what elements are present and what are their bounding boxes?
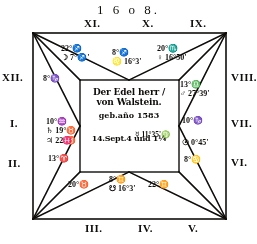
house-data-x: 8°♐ ♌ 16°3'	[112, 48, 141, 67]
house-data-iii: 20°♉	[68, 180, 89, 189]
inscription-line-4: 14.Sept.4 und 1¼	[80, 133, 178, 143]
cusp-vi: 8°♋	[184, 155, 201, 164]
house-data-xi: 22°♐ ☽ 7°♐'	[61, 44, 89, 63]
house-label-iii: III.	[85, 222, 103, 234]
center-inscription: Der Edel herr / von Walstein. geb.año 15…	[80, 82, 178, 170]
house-label-viii: VIII.	[231, 71, 257, 83]
house-label-vi: VI.	[231, 156, 247, 168]
body-i-saturn: ♄ 19°♉	[46, 126, 76, 135]
inscription-line-3: geb.año 1583	[80, 110, 178, 120]
body-ix: ♀ 16°50'	[157, 53, 186, 62]
cusp-ii: 13°♈	[48, 154, 69, 163]
inscription-line-1: Der Edel herr /	[80, 87, 178, 97]
house-label-vii: VII.	[231, 117, 252, 129]
cusp-xi: 22°♐	[61, 44, 82, 53]
body-x: ♌ 16°3'	[112, 57, 141, 66]
cusp-x: 8°♐	[112, 48, 129, 57]
house-label-ix: IX.	[190, 17, 206, 29]
house-data-ix: 20°♏ ♀ 16°50'	[157, 44, 186, 63]
house-data-iv: 8°♊ ☋ 16°3'	[109, 175, 135, 194]
chart-year: 1 6 o 8.	[0, 2, 257, 18]
house-label-iv: IV.	[138, 222, 153, 234]
house-label-i: I.	[10, 117, 18, 129]
house-data-vi: 8°♋	[184, 155, 201, 164]
inscription-line-2: von Walstein.	[80, 97, 178, 107]
cusp-i: 10°♒	[46, 117, 67, 126]
house-label-v: V.	[188, 222, 198, 234]
cusp-ix: 20°♏	[157, 44, 178, 53]
cusp-viii: 13°♎	[180, 80, 201, 89]
house-label-ii: II.	[8, 157, 21, 169]
pisces-glyph-icon: ♓	[62, 136, 72, 145]
cusp-vii: 10°♑	[182, 116, 203, 125]
body-xi: ☽ 7°♐'	[61, 53, 89, 62]
horoscope-square-chart: XI. X. IX. XII. I. II. VIII. VII. VI. II…	[32, 32, 227, 220]
cusp-v: 22°♊	[148, 180, 169, 189]
body-viii: ♂ 27°39'	[180, 89, 209, 98]
house-data-ii: 13°♈	[48, 154, 69, 163]
house-label-xii: XII.	[2, 71, 23, 83]
house-label-xi: XI.	[84, 17, 100, 29]
house-data-vii: 10°♑	[182, 116, 203, 125]
house-data-xii: 8°♑	[43, 74, 60, 83]
house-label-x: X.	[142, 17, 154, 29]
cusp-xii: 8°♑	[43, 74, 60, 83]
house-data-viii: 13°♎ ♂ 27°39'	[180, 80, 209, 99]
cusp-iv: 8°♊	[109, 175, 126, 184]
house-data-v: 22°♊	[148, 180, 169, 189]
body-iv: ☋ 16°3'	[109, 184, 135, 193]
planet-sun: ☉ 0°45'	[182, 138, 208, 147]
cusp-iii: 20°♉	[68, 180, 89, 189]
